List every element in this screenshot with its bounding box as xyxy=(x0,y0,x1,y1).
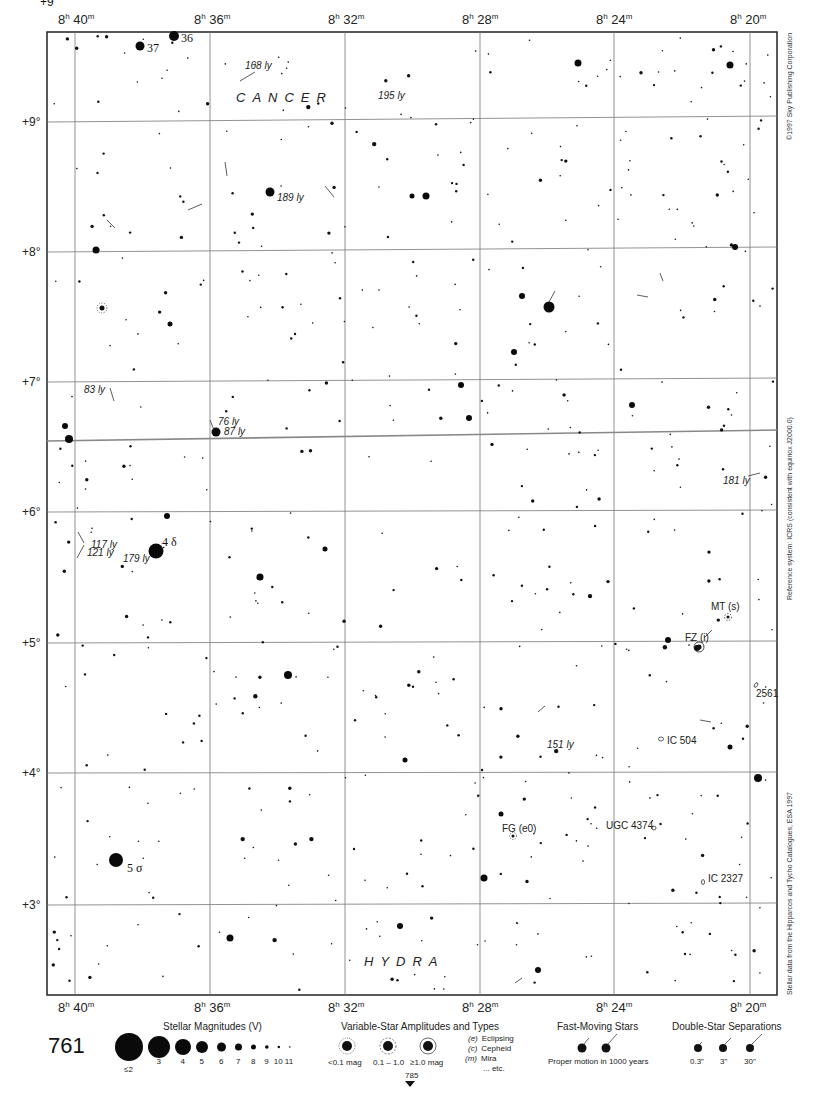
faint-star-dot xyxy=(511,600,513,602)
faint-star-dot xyxy=(166,70,168,72)
faint-star-dot xyxy=(435,682,437,684)
double-star-label-0: 0.3" xyxy=(690,1057,704,1066)
faint-star-dot xyxy=(741,836,743,838)
faint-star-dot xyxy=(338,420,340,422)
faint-star-dot xyxy=(165,713,167,715)
faint-star-dot xyxy=(276,905,278,907)
svg-text:(m)Mira: (m)Mira xyxy=(465,1054,497,1063)
faint-star-dot xyxy=(444,976,446,978)
faint-star-dot xyxy=(757,579,759,581)
faint-star-dot xyxy=(764,476,767,479)
magnitude-sample-icon xyxy=(251,1045,256,1050)
faint-star-dot xyxy=(507,148,509,150)
faint-star-dot xyxy=(628,650,630,652)
faint-star-dot xyxy=(734,954,736,956)
faint-star-dot xyxy=(344,321,346,323)
magnitude-scale: ≤234567891011 xyxy=(115,1033,294,1074)
faint-star-dot xyxy=(244,858,246,860)
next-page-arrow-icon[interactable] xyxy=(405,1081,415,1087)
faint-star-dot xyxy=(721,722,723,724)
faint-star-dot xyxy=(293,953,295,955)
faint-star-dot xyxy=(582,860,584,862)
faint-star-dot xyxy=(620,369,622,371)
faint-star-dot xyxy=(700,795,702,797)
faint-star-dot xyxy=(180,793,182,795)
faint-star-dot xyxy=(202,457,204,459)
faint-star-dot xyxy=(59,448,61,450)
faint-star-dot xyxy=(97,101,99,103)
faint-star-dot xyxy=(531,499,534,502)
faint-star-dot xyxy=(658,71,660,73)
variable-amp-label-0: <0.1 mag xyxy=(328,1058,362,1067)
faint-star-dot xyxy=(63,570,66,573)
galaxy-markers xyxy=(652,682,759,884)
faint-star-dot xyxy=(477,795,479,797)
faint-star-dot xyxy=(59,482,61,484)
galaxy-label: UGC 4374 xyxy=(606,820,654,831)
faint-star-dot xyxy=(53,930,56,933)
faint-star-dot xyxy=(180,236,183,239)
magnitude-sample-icon xyxy=(175,1039,191,1055)
variable-amplitude-symbols xyxy=(339,1038,436,1054)
faint-star-dot xyxy=(617,219,619,221)
faint-star-dot xyxy=(588,594,592,598)
faint-star-dot xyxy=(121,565,124,568)
faint-star-dot xyxy=(587,249,589,251)
faint-star-dot xyxy=(82,644,84,646)
faint-star-dot xyxy=(132,571,134,573)
faint-star-dot xyxy=(516,922,518,924)
faint-star-dot xyxy=(384,713,386,715)
faint-star-dot xyxy=(267,380,269,382)
page-top-fragment: +9 xyxy=(40,0,54,9)
faint-star-dot xyxy=(688,644,690,646)
faint-star-dot xyxy=(742,738,744,740)
ra-label-bottom-3: 8h 28m xyxy=(462,1000,499,1015)
faint-star-dot xyxy=(107,754,109,756)
faint-star-dot xyxy=(407,684,410,687)
ra-label-bottom-5: 8h 20m xyxy=(730,1000,767,1015)
variable-star-icon xyxy=(100,306,105,311)
magnitude-label: 3 xyxy=(157,1057,162,1066)
faint-star-dot xyxy=(451,221,453,223)
faint-star-dot xyxy=(606,69,608,71)
faint-star-dot xyxy=(288,787,291,790)
faint-star-dot xyxy=(489,71,491,73)
faint-star-dot xyxy=(152,897,154,899)
faint-star-dot xyxy=(732,51,734,53)
faint-star-dot xyxy=(537,933,539,935)
faint-star-dot xyxy=(70,935,72,937)
faint-star-dot xyxy=(294,842,297,845)
faint-star-dot xyxy=(271,586,273,588)
faint-star-dot xyxy=(481,400,483,402)
magnitude-label: 8 xyxy=(251,1057,256,1066)
copyright-note: ©1997 Sky Publishing Corporation xyxy=(786,33,794,140)
magnitude-legend-title: Stellar Magnitudes (V) xyxy=(163,1021,262,1032)
faint-star-dot xyxy=(712,727,714,729)
faint-star-dot xyxy=(159,133,161,135)
faint-star-dot xyxy=(435,123,437,125)
magnitude-sample-icon xyxy=(235,1044,242,1051)
faint-star-dot xyxy=(746,896,748,898)
variable-label: FG (e0) xyxy=(502,823,536,834)
faint-star-dot xyxy=(666,681,668,683)
faint-star-dot xyxy=(147,636,149,638)
star-dot xyxy=(728,745,733,750)
faint-star-dot xyxy=(260,307,262,309)
faint-star-dot xyxy=(674,980,676,982)
faint-star-dot xyxy=(182,201,184,203)
faint-star-dot xyxy=(215,703,217,705)
faint-star-dot xyxy=(327,231,330,234)
star-dot xyxy=(544,302,555,313)
faint-star-dot xyxy=(161,78,163,80)
variable-amp-label-1: 0.1 – 1.0 xyxy=(373,1058,405,1067)
faint-star-dot xyxy=(330,122,333,125)
faint-star-dot xyxy=(578,452,580,454)
faint-star-dot xyxy=(352,379,354,381)
faint-star-dot xyxy=(392,589,394,591)
faint-star-dot xyxy=(586,489,588,491)
proper-motion-vectors xyxy=(77,72,760,983)
faint-star-dot xyxy=(653,84,655,86)
variable-star-icon xyxy=(697,645,702,650)
faint-star-dot xyxy=(96,172,98,174)
faint-star-dot xyxy=(586,818,588,820)
